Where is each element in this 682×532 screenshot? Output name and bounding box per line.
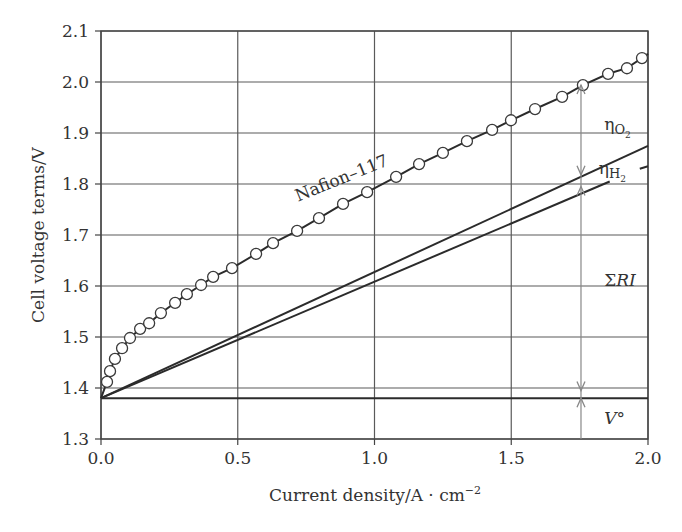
y-tick-label: 2.1 [62,21,89,41]
data-point [109,353,120,364]
x-axis-ticks: 0.00.51.01.52.0 [87,439,661,468]
data-point [338,198,349,209]
data-point [155,308,166,319]
y-axis-ticks: 1.31.41.51.61.71.81.92.02.1 [62,21,101,449]
data-point [362,187,373,198]
x-tick-label: 0.5 [224,448,251,468]
voltage-term-arrows [577,85,585,439]
y-tick-label: 1.5 [62,327,89,347]
annotations: Nafion–117ηO2ηH2ΣRIV° [292,114,636,427]
x-axis-label: Current density/A · cm−2 [269,484,481,505]
data-point [603,68,614,79]
x-tick-label: 1.5 [498,448,525,468]
data-point [414,159,425,170]
annotation-label: ΣRI [604,270,636,290]
x-tick-label: 0.0 [87,448,114,468]
data-point [227,263,238,274]
data-point [170,297,181,308]
series-line [640,166,648,169]
data-point [124,333,135,344]
x-tick-label: 1.0 [361,448,388,468]
annotation-label: Nafion–117 [292,150,391,205]
data-point [487,124,498,135]
data-point [505,115,516,126]
data-point [196,279,207,290]
data-point [530,104,541,115]
data-point [313,213,324,224]
data-point [251,248,262,259]
chart: 1.31.41.51.61.71.81.92.02.1 0.00.51.01.5… [0,0,682,532]
y-tick-label: 1.8 [62,174,89,194]
annotation-label: V° [604,408,625,428]
data-point [181,289,192,300]
x-tick-label: 2.0 [634,448,661,468]
data-point [105,366,116,377]
data-point [621,63,632,74]
data-point [117,343,128,354]
data-point [636,53,647,64]
data-point [208,271,219,282]
y-tick-label: 2.0 [62,72,89,92]
data-point [391,171,402,182]
y-tick-label: 1.7 [62,225,89,245]
data-point [437,147,448,158]
data-point [144,318,155,329]
data-point [292,225,303,236]
y-tick-label: 1.9 [62,123,89,143]
data-point [461,136,472,147]
series-line [101,182,610,399]
y-axis-label: Cell voltage terms/V [28,146,48,323]
annotation-label: ηO2 [604,114,631,140]
data-point [557,91,568,102]
data-point [102,376,113,387]
data-point [268,238,279,249]
y-tick-label: 1.3 [62,429,89,449]
y-tick-label: 1.6 [62,276,89,296]
y-tick-label: 1.4 [62,378,89,398]
